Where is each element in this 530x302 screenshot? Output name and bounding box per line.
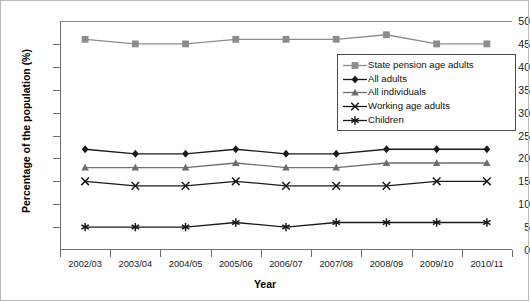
- data-point-diamond: [433, 145, 440, 153]
- data-point-square: [283, 36, 290, 43]
- legend-label: All adults: [368, 72, 407, 85]
- data-point-diamond: [232, 145, 239, 153]
- legend-item-3[interactable]: All individuals: [342, 85, 511, 99]
- legend-label: All individuals: [368, 85, 426, 98]
- data-point-square: [132, 41, 139, 48]
- legend-marker-cross-icon: [342, 99, 368, 112]
- series-3: [81, 159, 490, 170]
- series-layer: [0, 0, 530, 302]
- series-2: [82, 145, 491, 158]
- data-point-diamond: [132, 150, 139, 158]
- legend-label: State pension age adults: [368, 58, 474, 71]
- data-point-square: [433, 41, 440, 48]
- legend-item-5[interactable]: Children: [342, 112, 511, 126]
- legend-item-2[interactable]: All adults: [342, 72, 511, 86]
- data-point-square: [232, 36, 239, 43]
- data-point-diamond: [383, 145, 390, 153]
- series-1: [82, 31, 491, 47]
- data-point-square: [483, 41, 490, 48]
- data-point-square: [383, 31, 390, 38]
- series-5: [81, 218, 490, 231]
- data-point-diamond: [82, 145, 89, 153]
- data-point-square: [182, 41, 189, 48]
- legend-marker-square-icon: [342, 58, 368, 71]
- series-4: [81, 178, 490, 190]
- data-point-square: [82, 36, 89, 43]
- legend-item-1[interactable]: State pension age adults: [342, 58, 511, 72]
- data-point-diamond: [283, 150, 290, 158]
- legend: State pension age adultsAll adultsAll in…: [337, 54, 516, 131]
- data-point-diamond: [352, 75, 359, 83]
- legend-marker-diamond-icon: [342, 72, 368, 85]
- legend-item-4[interactable]: Working age adults: [342, 99, 511, 113]
- data-point-square: [333, 36, 340, 43]
- data-point-square: [352, 62, 359, 69]
- line-chart: 05101520253035404550 2002/032003/042004/…: [0, 0, 530, 302]
- legend-marker-asterisk-icon: [342, 113, 368, 126]
- legend-marker-triangle-icon: [342, 85, 368, 98]
- data-point-diamond: [333, 150, 340, 158]
- data-point-diamond: [483, 145, 490, 153]
- legend-label: Working age adults: [368, 99, 450, 112]
- data-point-diamond: [182, 150, 189, 158]
- legend-label: Children: [368, 113, 404, 126]
